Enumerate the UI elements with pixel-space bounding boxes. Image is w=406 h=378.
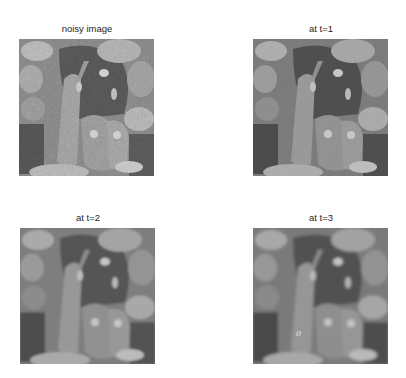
peppers-image-noisy xyxy=(19,39,154,176)
panel-title: at t=1 xyxy=(241,23,401,34)
peppers-scene xyxy=(19,39,154,176)
panel-title: noisy image xyxy=(7,23,167,34)
peppers-scene xyxy=(253,39,388,176)
panel-title: at t=3 xyxy=(241,212,401,223)
annotation-mark: 0 xyxy=(296,329,301,338)
peppers-image-t2 xyxy=(20,228,155,364)
peppers-scene xyxy=(253,228,388,364)
peppers-image-t3: 0 xyxy=(253,228,388,364)
peppers-scene xyxy=(20,228,155,364)
panel-title: at t=2 xyxy=(8,212,168,223)
peppers-image-t1 xyxy=(253,39,388,176)
